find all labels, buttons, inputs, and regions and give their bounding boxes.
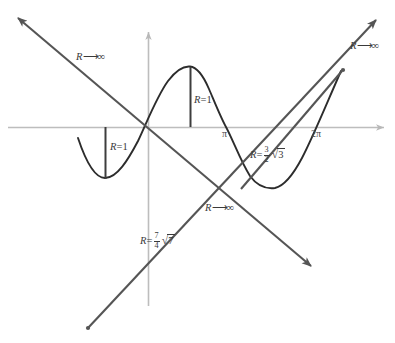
annotation-radius-three-halves-root-three: R=32√3	[250, 146, 285, 164]
fraction-three-halves: 32	[264, 146, 270, 164]
normal-segment-short-endpoint-dot	[341, 68, 345, 72]
construction-lines	[18, 18, 376, 330]
annotation-radius-equals-one-left: R=1	[110, 142, 128, 153]
square-root-three: √3	[271, 148, 285, 161]
curvature-diagram: π 2π R⟶∞ R⟶∞ R⟶∞ R=1 R=1 R=32√3 R=74√7	[0, 0, 395, 343]
annotation-radius-infinity-lower-middle: R⟶∞	[205, 203, 234, 214]
normal-line-descending	[18, 18, 311, 266]
normal-segment-short	[241, 71, 342, 189]
tick-label-two-pi: 2π	[311, 128, 321, 139]
fraction-seven-quarters: 74	[154, 232, 160, 250]
normal-line-ascending	[88, 20, 376, 328]
normal-line-ascending-endpoint-dot	[86, 326, 90, 330]
annotation-radius-infinity-upper-right: R⟶∞	[350, 41, 379, 52]
diagram-canvas	[0, 0, 395, 343]
annotation-radius-infinity-upper-left: R⟶∞	[76, 52, 105, 63]
square-root-seven: √7	[161, 234, 175, 247]
annotation-radius-equals-one-peak: R=1	[194, 95, 212, 106]
annotation-radius-seven-quarters-root-seven: R=74√7	[140, 232, 175, 250]
tick-label-pi: π	[222, 128, 227, 139]
